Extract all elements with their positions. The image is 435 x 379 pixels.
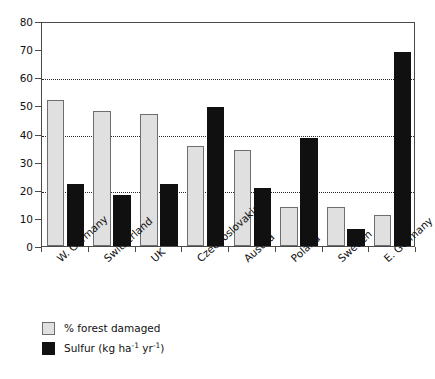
chart-legend: % forest damaged Sulfur (kg ha-1 yr-1) <box>42 320 164 360</box>
legend-item-sulfur: Sulfur (kg ha-1 yr-1) <box>42 340 164 357</box>
legend-sulfur-sup1: -1 <box>132 341 139 350</box>
bar <box>300 138 318 246</box>
legend-sulfur-mid: yr <box>139 342 153 354</box>
legend-label-sulfur: Sulfur (kg ha-1 yr-1) <box>64 343 164 354</box>
legend-label-forest: % forest damaged <box>64 323 160 334</box>
y-axis-label: 20 <box>0 186 33 197</box>
legend-swatch-sulfur-icon <box>42 342 55 355</box>
bar <box>187 146 205 246</box>
x-axis-tick <box>322 247 323 252</box>
legend-sulfur-prefix: Sulfur (kg ha <box>64 342 132 354</box>
bar <box>374 215 392 246</box>
y-axis-label: 80 <box>0 17 33 28</box>
x-axis-tick <box>415 247 416 252</box>
x-axis-tick <box>228 247 229 252</box>
y-axis-label: 50 <box>0 101 33 112</box>
plot-area <box>41 22 415 247</box>
bar <box>160 184 178 246</box>
y-axis-label: 10 <box>0 214 33 225</box>
gridline <box>42 79 414 80</box>
legend-sulfur-suffix: ) <box>160 342 164 354</box>
y-axis-label: 30 <box>0 158 33 169</box>
legend-swatch-forest-icon <box>42 322 55 335</box>
bar <box>207 107 225 246</box>
y-axis-label: 0 <box>0 242 33 253</box>
bar <box>327 207 345 246</box>
bar <box>394 52 412 246</box>
bar <box>280 207 298 246</box>
y-axis-label: 60 <box>0 73 33 84</box>
y-axis-label: 40 <box>0 130 33 141</box>
x-axis-tick <box>275 247 276 252</box>
x-axis-tick <box>135 247 136 252</box>
x-axis-tick <box>88 247 89 252</box>
x-axis-tick <box>41 247 42 252</box>
x-axis-tick <box>181 247 182 252</box>
bar <box>47 100 65 246</box>
x-axis-tick <box>368 247 369 252</box>
x-axis-label: UK <box>149 246 167 263</box>
legend-item-forest: % forest damaged <box>42 320 164 337</box>
y-axis-label: 70 <box>0 45 33 56</box>
